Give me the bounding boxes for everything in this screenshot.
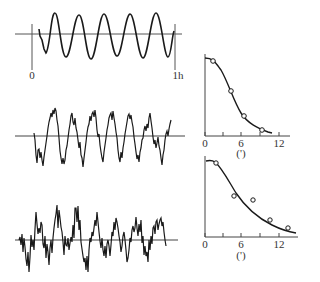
data-point <box>214 161 218 165</box>
data-point <box>232 194 236 198</box>
data-point <box>251 198 255 202</box>
noisy-curve <box>34 108 171 167</box>
data-point <box>260 128 265 133</box>
figure: 0 1h 0 6 12 (') <box>0 0 320 282</box>
data-point <box>242 114 247 119</box>
x-ticks <box>205 233 279 237</box>
data-point <box>211 59 216 64</box>
data-point <box>268 218 272 222</box>
data-points <box>214 161 290 230</box>
very-noisy-curve <box>19 205 166 272</box>
x-tick-label: 12 <box>274 238 285 250</box>
fit-curve <box>206 160 296 233</box>
x-axis-label: (') <box>236 147 246 160</box>
data-point <box>286 226 290 230</box>
x-tick-label: 0 <box>202 137 208 149</box>
panel-decay-chart-1: 0 6 12 (') <box>202 54 290 160</box>
data-point <box>229 89 234 94</box>
panel-sine-wave: 0 1h <box>15 13 184 81</box>
panel-decay-chart-2: 0 6 12 (') <box>202 156 298 262</box>
panel-very-noisy-wave <box>15 205 178 272</box>
end-label: 1h <box>173 69 185 81</box>
start-label: 0 <box>29 69 35 81</box>
x-tick-label: 0 <box>202 238 208 250</box>
fit-curve <box>205 58 272 133</box>
x-tick-label: 12 <box>274 137 285 149</box>
data-points <box>211 59 265 133</box>
x-axis-label: (') <box>236 249 246 262</box>
panel-noisy-wave <box>15 108 185 167</box>
sine-curve <box>39 13 174 59</box>
